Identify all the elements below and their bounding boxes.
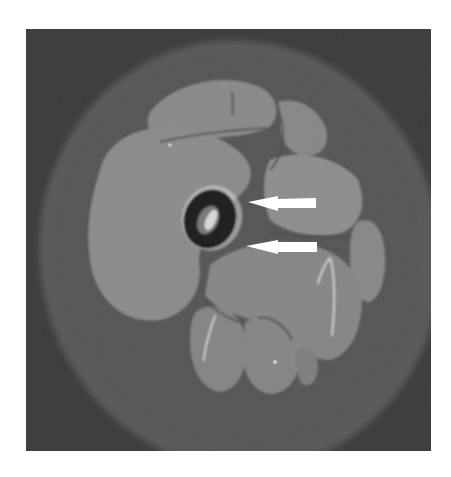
- mri-thigh-image: [26, 29, 431, 451]
